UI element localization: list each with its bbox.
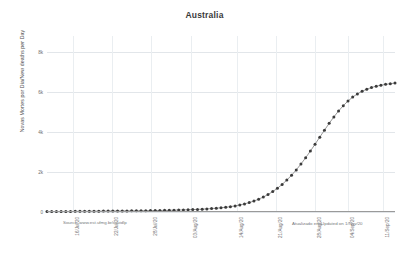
data-point [271,190,274,193]
data-point [342,104,345,107]
x-axis-baseline [47,211,395,212]
data-point [361,90,364,93]
data-point [220,206,223,209]
y-tick-label: 6k [38,90,43,95]
data-point [394,82,397,85]
updated-note: Atualizado em/Updated on 1/Nov/20 [292,221,363,226]
y-tick-label: 2k [38,170,43,175]
y-tick-label: 8k [38,50,43,55]
y-tick-label: 4k [38,130,43,135]
data-point [210,207,213,210]
data-point [299,163,302,166]
data-point [290,174,293,177]
data-point [215,207,218,210]
data-point [323,129,326,132]
data-point [384,83,387,86]
data-point [262,196,265,199]
data-point [365,88,368,91]
data-point [229,205,232,208]
data-point [224,206,227,209]
x-tick-label: 11/Sep/20 [385,217,390,238]
series-polyline [47,83,395,211]
source-note: Source: www.est.ufmg.br/covidlp [63,220,127,225]
data-point [257,198,260,201]
data-point [234,204,237,207]
data-point [379,84,382,87]
data-point [351,96,354,99]
data-point [281,183,284,186]
data-point [205,207,208,210]
data-point [276,187,279,190]
data-point [238,204,241,207]
series-markers [46,82,397,213]
data-point [337,110,340,113]
data-point [252,200,255,203]
data-point [370,86,373,89]
data-series-line [47,36,395,212]
x-tick-label: 28/Jul/20 [153,217,158,236]
x-tick-label: 21/Aug/20 [278,217,283,238]
data-point [318,136,321,139]
data-point [314,143,317,146]
data-point [328,122,331,125]
data-point [295,168,298,171]
plot-area: 02k4k6k8k 16/Jul/2022/Jul/2028/Jul/2003/… [47,36,395,212]
x-tick-label: 03/Aug/20 [193,217,198,238]
y-axis-title: Novas Mortes por Dia/New deaths per Day [19,21,25,141]
data-point [389,82,392,85]
x-tick-label: 14/Aug/20 [239,217,244,238]
y-tick-label: 0 [40,210,43,215]
data-point [375,85,378,88]
data-point [356,92,359,95]
data-point [309,150,312,153]
chart-figure: Australia Novas Mortes por Dia/New death… [0,0,409,277]
data-point [346,100,349,103]
data-point [248,201,251,204]
data-point [243,202,246,205]
data-point [267,193,270,196]
data-point [332,115,335,118]
chart-title: Australia [0,10,409,20]
data-point [285,179,288,182]
data-point [304,156,307,159]
